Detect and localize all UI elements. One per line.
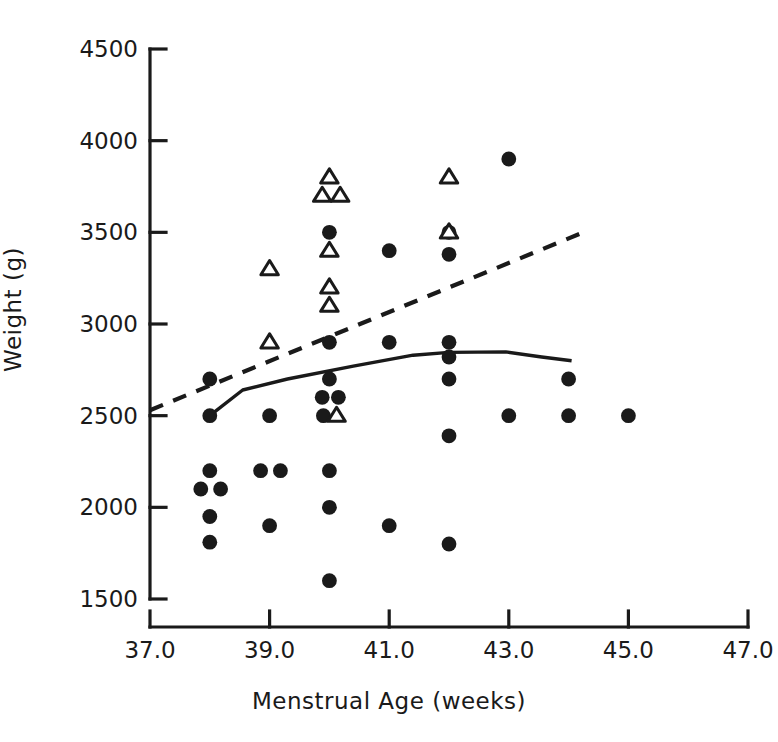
data-markers: [193, 152, 635, 588]
y-tick-label: 2500: [79, 403, 138, 429]
y-axis-title: Weight (g): [0, 247, 26, 372]
solid-curve: [210, 352, 572, 416]
y-tick-label: 4500: [79, 36, 138, 62]
x-tick-label: 47.0: [722, 637, 773, 663]
x-axis-title: Menstrual Age (weeks): [0, 688, 778, 714]
y-tick-label: 1500: [79, 586, 138, 612]
x-tick-label: 45.0: [603, 637, 654, 663]
x-tick-label: 39.0: [244, 637, 295, 663]
x-tick-label: 43.0: [483, 637, 534, 663]
plot-area: [0, 0, 778, 742]
y-tick-label: 3500: [79, 219, 138, 245]
x-tick-label: 37.0: [124, 637, 175, 663]
y-tick-label: 2000: [79, 494, 138, 520]
scatter-chart: 1500200025003000350040004500 37.039.041.…: [0, 0, 778, 742]
x-tick-label: 41.0: [364, 637, 415, 663]
y-tick-label: 3000: [79, 311, 138, 337]
y-tick-label: 4000: [79, 128, 138, 154]
